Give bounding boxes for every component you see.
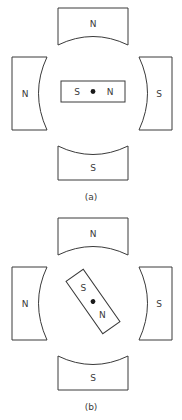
pole-label-right: S — [156, 299, 162, 309]
panel-caption-a: (a) — [85, 192, 98, 202]
pole-piece-left — [12, 57, 47, 130]
pole-label-top: N — [90, 19, 97, 29]
pole-label-bottom: S — [90, 373, 96, 383]
pole-label-bottom: S — [90, 163, 96, 173]
needle-label-right: N — [107, 87, 114, 97]
pole-piece-left — [12, 267, 47, 340]
compass-needle: S N — [61, 81, 125, 102]
pole-label-left: N — [22, 89, 29, 99]
panel-caption-b: (b) — [85, 402, 98, 412]
compass-needle: S N — [66, 269, 120, 333]
diagram-b: N N S S S N (b) — [0, 210, 182, 420]
figure-panel-b: N N S S S N (b) — [0, 210, 182, 420]
pole-label-right: S — [156, 89, 162, 99]
needle-label-left: S — [81, 283, 87, 293]
pole-label-top: N — [90, 229, 97, 239]
figure-panel-a: N N S S S N (a) — [0, 0, 182, 210]
needle-label-left: S — [74, 87, 80, 97]
needle-pivot-dot — [91, 89, 96, 94]
pole-label-left: N — [22, 299, 29, 309]
needle-label-right: N — [99, 310, 106, 320]
diagram-a: N N S S S N (a) — [0, 0, 182, 210]
